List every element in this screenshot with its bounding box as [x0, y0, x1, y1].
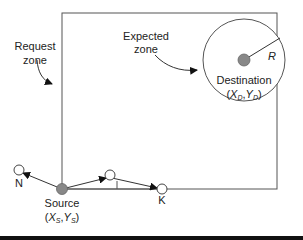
- node-i-icon: [105, 170, 115, 180]
- edge-source-to-i: [62, 178, 106, 189]
- radius-label: R: [268, 50, 276, 62]
- destination-node-icon: [238, 54, 250, 66]
- expected-zone-label-line1: Expected: [123, 30, 169, 42]
- node-k-icon: [157, 184, 167, 194]
- bottom-rule: [0, 236, 303, 240]
- node-k-label: K: [158, 194, 166, 206]
- source-coords: (XS,YS): [45, 211, 79, 224]
- destination-label: Destination: [216, 74, 271, 86]
- request-zone-label-line2: zone: [23, 54, 47, 66]
- source-label: Source: [45, 197, 80, 209]
- request-zone-label-line1: Request: [15, 40, 56, 52]
- node-n-icon: [14, 165, 24, 175]
- node-n-label: N: [15, 177, 23, 189]
- expected-zone-pointer-arrow: [155, 55, 197, 70]
- edge-i-to-k: [112, 178, 157, 188]
- routing-zone-diagram: Request zone Expected zone R Destination…: [0, 0, 303, 240]
- edge-source-to-n: [23, 173, 62, 189]
- expected-zone-label-line2: zone: [134, 43, 158, 55]
- source-node-icon: [57, 184, 68, 195]
